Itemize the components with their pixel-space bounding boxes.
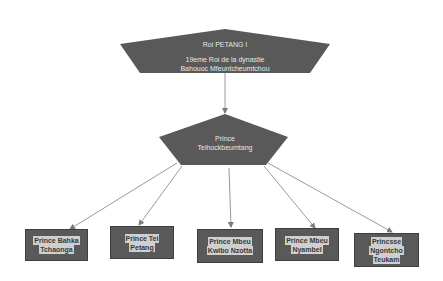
connector-child-1 <box>70 163 177 229</box>
root-subtitle-2: Bahouoc Mfeuntcheumtchou <box>130 64 320 73</box>
root-subtitle-1: 19eme Roi de la dynastie <box>130 55 320 64</box>
child-node-1[interactable]: Prince Bahka Tchaonga <box>25 229 88 261</box>
connector-child-2 <box>139 166 182 225</box>
parent-node-label: Prince Teihockbeumtang <box>165 134 285 152</box>
child-1-line-2: Tchaonga <box>39 245 74 254</box>
connector-child-3 <box>229 168 231 227</box>
child-4-line-2: Nyambel <box>291 245 322 254</box>
connector-child-5 <box>268 163 392 232</box>
child-5-line-3: Teukam <box>373 255 401 264</box>
child-2-line-2: Petang <box>129 243 154 252</box>
parent-line-2: Teihockbeumtang <box>165 143 285 152</box>
parent-line-1: Prince <box>165 134 285 143</box>
child-3-line-2: Kwibo Nzotta <box>207 246 253 255</box>
child-1-line-1: Prince Bahka <box>33 236 79 245</box>
child-3-line-1: Prince Mbeu <box>208 237 252 246</box>
child-node-3[interactable]: Prince Mbeu Kwibo Nzotta <box>197 229 263 263</box>
root-node-label: Roi PETANG I 19eme Roi de la dynastie Ba… <box>130 40 320 73</box>
child-2-line-1: Prince Tei <box>125 234 160 243</box>
child-node-5[interactable]: Princsse Ngontcho Teukam <box>354 233 419 267</box>
child-5-line-2: Ngontcho <box>369 246 404 255</box>
child-node-2[interactable]: Prince Tei Petang <box>110 226 174 259</box>
root-title: Roi PETANG I <box>130 40 320 49</box>
child-node-4[interactable]: Prince Mbeu Nyambel <box>275 228 339 261</box>
child-5-line-1: Princsse <box>371 237 402 246</box>
child-4-line-1: Prince Mbeu <box>285 236 329 245</box>
